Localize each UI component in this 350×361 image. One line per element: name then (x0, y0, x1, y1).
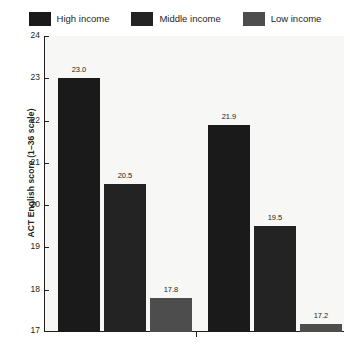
bar-value-female-low-income: 17.8 (164, 285, 179, 294)
bar-female-low-income[interactable]: 17.8 (150, 298, 192, 332)
y-tick-label-17: 17 (20, 325, 40, 336)
bar-rect-female-low-income (150, 298, 192, 332)
bar-male-high-income[interactable]: 21.9 (208, 125, 250, 332)
bar-value-male-low-income: 17.2 (314, 311, 329, 320)
legend-label-middle-income: Middle income (159, 14, 220, 24)
legend-item-middle-income: Middle income (131, 12, 220, 26)
group-separator-tick (196, 331, 197, 337)
legend-label-low-income: Low income (271, 14, 322, 24)
bar-value-male-middle-income: 19.5 (268, 213, 283, 222)
legend-item-high-income: High income (29, 12, 110, 26)
legend-swatch-high-income (29, 12, 51, 26)
bar-male-low-income[interactable]: 17.2 (300, 324, 342, 333)
chart-legend: High income Middle income Low income (0, 8, 350, 30)
bar-female-middle-income[interactable]: 20.5 (104, 184, 146, 332)
y-axis-title: ACT English score (1–36 scale) (26, 88, 36, 258)
y-tick-label-21: 21 (20, 157, 40, 168)
plot-wrapper: 24 23 22 21 20 19 18 17 (44, 36, 344, 332)
bar-rect-female-middle-income (104, 184, 146, 332)
y-tick-label-18: 18 (20, 284, 40, 295)
y-tick-label-19: 19 (20, 241, 40, 252)
y-tick-label-23: 23 (20, 72, 40, 83)
bar-female-high-income[interactable]: 23.0 (58, 78, 100, 332)
bar-rect-male-high-income (208, 125, 250, 332)
bar-value-female-middle-income: 20.5 (118, 171, 133, 180)
legend-swatch-middle-income (131, 12, 153, 26)
bar-male-middle-income[interactable]: 19.5 (254, 226, 296, 332)
bar-value-male-high-income: 21.9 (222, 112, 237, 121)
y-tick-label-24: 24 (20, 30, 40, 41)
legend-swatch-low-income (243, 12, 265, 26)
y-tick-label-20: 20 (20, 199, 40, 210)
bar-rect-male-low-income (300, 324, 342, 333)
legend-item-low-income: Low income (243, 12, 322, 26)
legend-label-high-income: High income (57, 14, 110, 24)
y-tick-label-22: 22 (20, 115, 40, 126)
bar-rect-female-high-income (58, 78, 100, 332)
act-english-score-bar-chart: High income Middle income Low income ACT… (0, 0, 350, 361)
bar-value-female-high-income: 23.0 (72, 65, 87, 74)
bar-rect-male-middle-income (254, 226, 296, 332)
bars-layer: 23.0 20.5 17.8 21.9 19.5 17.2 (44, 36, 344, 332)
